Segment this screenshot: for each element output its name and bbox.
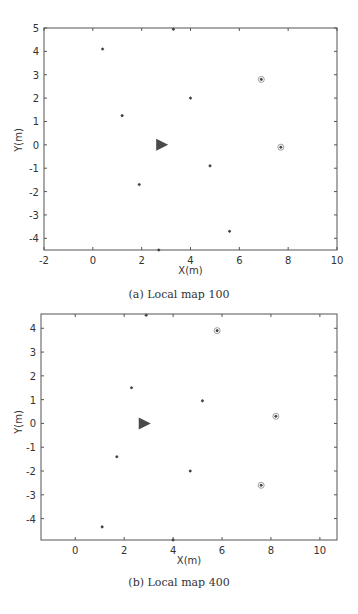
y-tick-label: -4 bbox=[26, 514, 36, 525]
landmark-point bbox=[171, 538, 174, 541]
y-tick-label: 4 bbox=[30, 323, 36, 334]
landmark-point bbox=[201, 399, 204, 402]
y-tick-label: -2 bbox=[26, 466, 36, 477]
landmark-point bbox=[115, 455, 118, 458]
x-axis-label: X(m) bbox=[177, 555, 201, 566]
landmark-point bbox=[258, 482, 264, 488]
caption-b: (b) Local map 400 bbox=[0, 576, 358, 589]
x-tick-label: 2 bbox=[121, 545, 127, 556]
landmark-point bbox=[214, 328, 220, 334]
y-tick-label: -1 bbox=[26, 442, 36, 453]
y-tick-label: 3 bbox=[30, 347, 36, 358]
landmark-point bbox=[101, 525, 104, 528]
scatter-plot-b: 0246810-4-3-2-101234X(m)Y(m) bbox=[0, 0, 358, 614]
y-tick-label: -3 bbox=[26, 490, 36, 501]
y-axis-label: Y(m) bbox=[13, 410, 24, 435]
landmark-point bbox=[130, 386, 133, 389]
landmark-point bbox=[189, 469, 192, 472]
x-tick-label: 8 bbox=[268, 545, 274, 556]
y-tick-label: 2 bbox=[30, 371, 36, 382]
x-tick-label: 6 bbox=[219, 545, 225, 556]
robot-pose-icon bbox=[139, 417, 151, 429]
landmark-point bbox=[273, 413, 279, 419]
x-tick-label: 4 bbox=[170, 545, 176, 556]
x-tick-label: 0 bbox=[72, 545, 78, 556]
y-tick-label: 0 bbox=[30, 418, 36, 429]
x-tick-label: 10 bbox=[314, 545, 327, 556]
axes-frame bbox=[41, 314, 337, 540]
panel-b: 0246810-4-3-2-101234X(m)Y(m) (b) Local m… bbox=[0, 0, 358, 614]
y-tick-label: 1 bbox=[30, 395, 36, 406]
